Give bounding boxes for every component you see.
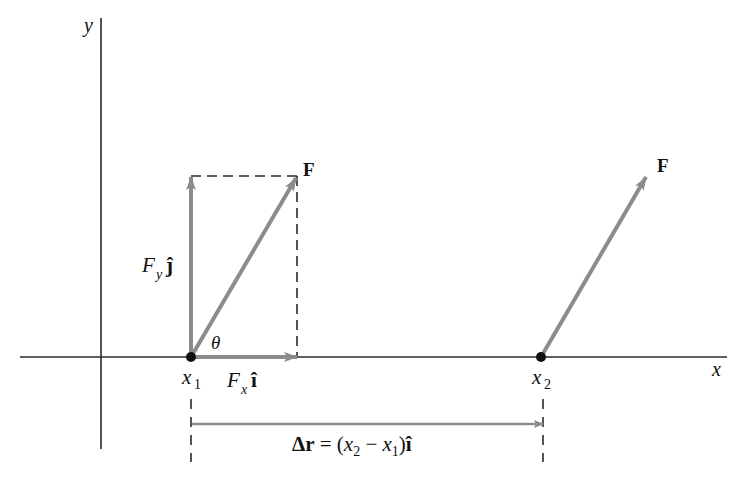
x-axis-label: x	[711, 358, 721, 380]
fy-main: F	[141, 253, 155, 277]
x1-term-sub: 1	[392, 444, 399, 459]
displacement-i-hat: î	[405, 432, 413, 456]
x1-label: x 1	[181, 365, 201, 392]
x1-main: x	[181, 365, 192, 389]
force-components	[191, 177, 297, 357]
close-paren: )	[399, 432, 406, 456]
j-hat: ĵ	[165, 253, 174, 277]
force-label-x2: F	[657, 155, 669, 176]
point-x1	[186, 352, 196, 362]
x2-term-sub: 2	[353, 444, 360, 459]
x2-main: x	[531, 365, 542, 389]
x1-sub: 1	[194, 377, 201, 392]
fx-sub: x	[240, 382, 248, 397]
fy-component-label: F y ĵ	[141, 253, 174, 282]
angle-theta-label: θ	[211, 332, 220, 353]
minus-sign: −	[360, 432, 382, 456]
fx-component-label: F x î	[226, 368, 258, 397]
axes: x y	[20, 14, 727, 449]
point-x2	[536, 352, 546, 362]
fx-main: F	[226, 368, 240, 392]
y-axis-label: y	[82, 14, 93, 37]
delta-r: Δr	[292, 432, 315, 456]
force-arrow-at-x2	[541, 177, 646, 357]
displacement-label: Δr = (x2 − x1)î	[292, 432, 413, 459]
equals-open: = (	[315, 432, 344, 456]
force-label-x1: F	[303, 159, 315, 180]
x2-label: x 2	[531, 365, 551, 392]
x2-sub: 2	[544, 377, 551, 392]
i-hat: î	[250, 368, 258, 392]
force-arrow-at-x1	[191, 178, 296, 357]
force-displacement-diagram: x y F F F y ĵ θ x 1 x 2 F x î	[0, 0, 746, 477]
fy-sub: y	[154, 267, 163, 282]
